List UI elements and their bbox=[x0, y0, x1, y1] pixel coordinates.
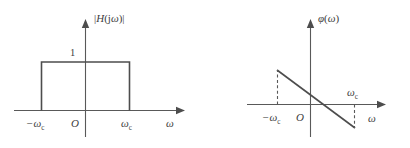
abs-bar-right: | bbox=[122, 12, 124, 24]
magnitude-x-axis-arrow-icon bbox=[176, 107, 185, 114]
phase-origin-label: O bbox=[296, 111, 304, 123]
phase-linear-curve bbox=[277, 70, 355, 128]
magnitude-response-plot: |H(jω)| 1 O −ωc ωc ω bbox=[0, 0, 205, 148]
phase-y-axis-label: φ(ω) bbox=[318, 12, 340, 25]
magnitude-y-axis-label: |H(jω)| bbox=[94, 12, 125, 25]
neg-cutoff-subscript: c bbox=[277, 118, 280, 126]
paren-close: ) bbox=[336, 12, 340, 25]
phase-x-axis-arrow-icon bbox=[377, 101, 386, 108]
neg-cutoff-omega: −ω bbox=[26, 117, 41, 129]
pos-cutoff-subscript: c bbox=[129, 124, 132, 132]
magnitude-pos-cutoff-label: ωc bbox=[121, 117, 132, 132]
phase-y-axis-arrow-icon bbox=[307, 19, 314, 28]
neg-cutoff-omega: −ω bbox=[262, 111, 277, 123]
pos-cutoff-subscript: c bbox=[355, 93, 358, 101]
phase-x-axis-label: ω bbox=[368, 112, 376, 124]
neg-cutoff-subscript: c bbox=[41, 124, 44, 132]
phase-response-plot: φ(ω) O −ωc ωc ω bbox=[205, 0, 410, 148]
figure-container: |H(jω)| 1 O −ωc ωc ω φ(ω) bbox=[0, 0, 410, 148]
phase-neg-cutoff-label: −ωc bbox=[262, 111, 280, 126]
magnitude-x-axis-label: ω bbox=[166, 117, 174, 129]
magnitude-neg-cutoff-label: −ωc bbox=[26, 117, 44, 132]
magnitude-y-axis-arrow-icon bbox=[82, 19, 89, 28]
magnitude-origin-label: O bbox=[71, 117, 79, 129]
phase-pos-cutoff-label: ωc bbox=[347, 86, 358, 101]
magnitude-value-one-label: 1 bbox=[70, 47, 75, 58]
